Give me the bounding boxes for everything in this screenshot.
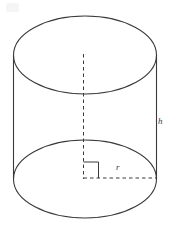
height-label: h	[158, 117, 163, 126]
right-angle-marker	[84, 162, 99, 178]
bottom-base-ellipse	[14, 140, 157, 218]
cylinder-diagram-svg	[0, 0, 170, 228]
top-base-ellipse	[14, 16, 157, 94]
cylinder-figure: h r	[0, 0, 170, 228]
radius-label: r	[116, 163, 120, 172]
